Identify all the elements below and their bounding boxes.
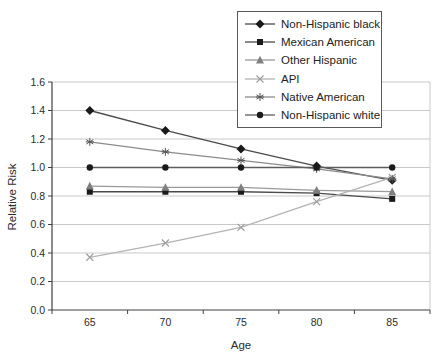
diamond-marker [161, 126, 170, 135]
square-marker [389, 196, 395, 202]
x-tick-label: 75 [235, 316, 247, 328]
circle-marker [162, 164, 168, 170]
legend-label: Other Hispanic [281, 54, 357, 66]
y-tick-label: 0.6 [30, 218, 45, 230]
legend-label: Native American [281, 91, 365, 103]
diamond-marker [85, 106, 94, 115]
legend-label: API [281, 73, 300, 85]
asterisk-marker [161, 148, 169, 156]
x-axis-title: Age [141, 339, 341, 351]
circle-marker [313, 164, 319, 170]
asterisk-legend-icon [244, 90, 276, 104]
x-marker [313, 198, 320, 205]
asterisk-marker [237, 156, 245, 164]
x-tick-label: 65 [84, 316, 96, 328]
y-axis-title: Relative Risk [6, 147, 20, 247]
legend-item-non-hispanic-black: Non-Hispanic black [244, 16, 381, 32]
y-tick-label: 0.4 [30, 247, 45, 259]
legend-label: Non-Hispanic white [281, 109, 380, 121]
legend-item-mexican-american: Mexican American [244, 34, 381, 50]
y-tick-label: 1.0 [30, 161, 45, 173]
asterisk-marker [256, 93, 264, 101]
y-tick-label: 1.2 [30, 133, 45, 145]
circle-marker [238, 164, 244, 170]
x-tick-label: 85 [386, 316, 398, 328]
legend-item-non-hispanic-white: Non-Hispanic white [244, 107, 381, 123]
y-tick-label: 0.2 [30, 275, 45, 287]
legend-item-native-american: Native American [244, 89, 381, 105]
circle-legend-icon [244, 108, 276, 122]
legend-label: Mexican American [281, 36, 375, 48]
y-tick-label: 0.8 [30, 190, 45, 202]
triangle-legend-icon [244, 53, 276, 67]
square-marker [257, 39, 263, 45]
square-marker [87, 189, 93, 195]
y-tick-label: 1.6 [30, 76, 45, 88]
legend-item-other-hispanic: Other Hispanic [244, 52, 381, 68]
legend-label: Non-Hispanic black [281, 18, 380, 30]
circle-marker [257, 112, 263, 118]
circle-marker [87, 164, 93, 170]
circle-marker [389, 164, 395, 170]
series-non-hispanic-white [87, 164, 396, 170]
chart-legend: Non-Hispanic blackMexican AmericanOther … [237, 11, 382, 128]
x-tick-label: 80 [311, 316, 323, 328]
x-tick-label: 70 [160, 316, 172, 328]
square-legend-icon [244, 35, 276, 49]
y-tick-label: 1.4 [30, 104, 45, 116]
y-tick-label: 0.0 [30, 304, 45, 316]
diamond-legend-icon [244, 17, 276, 31]
legend-item-api: API [244, 71, 381, 87]
diamond-marker [237, 144, 246, 153]
x-legend-icon [244, 72, 276, 86]
diamond-marker [256, 20, 265, 29]
